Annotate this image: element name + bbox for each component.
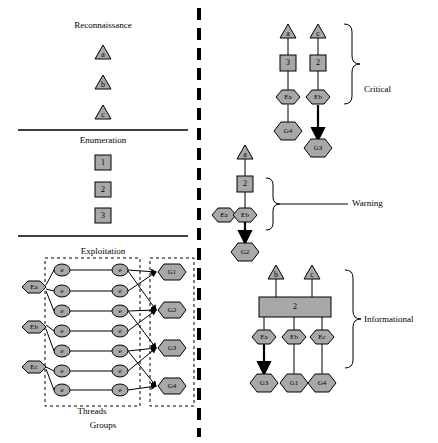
svg-text:2: 2 bbox=[293, 302, 297, 311]
thread-to-group-edges bbox=[128, 270, 156, 390]
svg-text:e: e bbox=[118, 367, 121, 375]
thread-row: e e bbox=[54, 365, 128, 377]
informational-node-Ea: Ea bbox=[252, 330, 276, 344]
label-reconnaissance: Reconnaissance bbox=[74, 20, 131, 30]
critical-node-Eb: Eb bbox=[306, 90, 330, 104]
label-warning: Warning bbox=[352, 198, 383, 208]
svg-text:e: e bbox=[60, 327, 63, 335]
svg-text:G1: G1 bbox=[290, 379, 299, 387]
warning-node-a: a bbox=[237, 145, 253, 159]
informational-node-G3: G3 bbox=[250, 374, 278, 392]
warning-node-G2: G2 bbox=[231, 243, 259, 261]
svg-text:e: e bbox=[60, 367, 63, 375]
svg-text:G4: G4 bbox=[318, 379, 327, 387]
svg-text:Ec: Ec bbox=[30, 363, 37, 371]
label-threads: Threads bbox=[78, 406, 107, 416]
thread-row: e e bbox=[54, 305, 128, 317]
svg-text:a: a bbox=[286, 29, 290, 38]
svg-text:Eb: Eb bbox=[30, 323, 38, 331]
recon-node-b: b bbox=[95, 75, 111, 89]
informational-node-G1: G1 bbox=[280, 374, 308, 392]
group-node-G1: G1 bbox=[158, 264, 186, 280]
label-exploitation: Exploitation bbox=[81, 246, 126, 256]
svg-text:Eb: Eb bbox=[314, 93, 322, 101]
svg-text:Eb: Eb bbox=[290, 333, 298, 341]
informational-node-G4: G4 bbox=[308, 374, 336, 392]
exploit-node-Ec: Ec bbox=[22, 361, 46, 373]
svg-text:c: c bbox=[101, 110, 105, 119]
critical-brace bbox=[344, 24, 360, 104]
svg-text:Eb: Eb bbox=[241, 211, 249, 219]
svg-text:Ec: Ec bbox=[318, 333, 325, 341]
recon-node-c: c bbox=[95, 105, 111, 119]
svg-text:c: c bbox=[316, 29, 320, 38]
critical-node-a: a bbox=[280, 24, 296, 38]
svg-text:e: e bbox=[60, 347, 63, 355]
diagram-canvas: a b c 1 2 3 Ea bbox=[0, 0, 438, 443]
thread-row: e e bbox=[54, 345, 128, 357]
svg-text:e: e bbox=[118, 347, 121, 355]
svg-text:e: e bbox=[118, 327, 121, 335]
enum-node-2: 2 bbox=[95, 182, 111, 197]
informational-node-2: 2 bbox=[259, 297, 331, 317]
svg-text:e: e bbox=[118, 266, 121, 274]
diagram-svg: a b c 1 2 3 Ea bbox=[0, 0, 438, 443]
enum-node-3: 3 bbox=[95, 208, 111, 223]
svg-text:G3: G3 bbox=[314, 144, 323, 152]
svg-text:2: 2 bbox=[101, 185, 105, 194]
svg-text:b: b bbox=[274, 270, 278, 279]
critical-node-c: c bbox=[310, 24, 326, 38]
svg-text:3: 3 bbox=[101, 211, 105, 220]
svg-text:Ea: Ea bbox=[220, 211, 228, 219]
svg-text:Ea: Ea bbox=[30, 283, 38, 291]
svg-text:G3: G3 bbox=[260, 379, 269, 387]
svg-text:G3: G3 bbox=[168, 344, 177, 352]
svg-text:e: e bbox=[60, 386, 63, 394]
label-enumeration: Enumeration bbox=[80, 135, 127, 145]
svg-text:e: e bbox=[118, 307, 121, 315]
informational-edges bbox=[264, 279, 322, 374]
informational-node-c: c bbox=[304, 265, 320, 279]
enum-node-1: 1 bbox=[95, 155, 111, 170]
svg-text:Ea: Ea bbox=[284, 93, 292, 101]
svg-text:3: 3 bbox=[286, 58, 290, 67]
critical-node-Ea: Ea bbox=[276, 90, 300, 104]
exploit-node-Ea: Ea bbox=[22, 281, 46, 293]
critical-node-2: 2 bbox=[310, 55, 326, 71]
critical-node-G3: G3 bbox=[304, 139, 332, 157]
svg-text:e: e bbox=[118, 287, 121, 295]
critical-node-3: 3 bbox=[280, 55, 296, 71]
warning-node-2: 2 bbox=[237, 176, 253, 192]
label-critical: Critical bbox=[364, 84, 391, 94]
thread-row: e e bbox=[54, 285, 128, 297]
informational-brace bbox=[345, 270, 361, 368]
group-node-G2: G2 bbox=[158, 302, 186, 318]
label-groups: Groups bbox=[90, 420, 117, 430]
informational-node-b: b bbox=[268, 265, 284, 279]
svg-text:G1: G1 bbox=[168, 268, 177, 276]
group-node-G4: G4 bbox=[158, 378, 186, 394]
critical-node-G4: G4 bbox=[274, 122, 302, 140]
svg-text:b: b bbox=[101, 80, 105, 89]
recon-node-a: a bbox=[95, 45, 111, 59]
thread-row: e e bbox=[54, 384, 128, 396]
informational-node-Eb: Eb bbox=[282, 330, 306, 344]
exploit-node-Eb: Eb bbox=[22, 321, 46, 333]
svg-text:e: e bbox=[118, 386, 121, 394]
group-node-G3: G3 bbox=[158, 340, 186, 356]
thread-row: e e bbox=[54, 264, 128, 276]
svg-text:2: 2 bbox=[243, 179, 247, 188]
svg-text:G2: G2 bbox=[241, 248, 250, 256]
svg-text:2: 2 bbox=[316, 58, 320, 67]
svg-text:G4: G4 bbox=[168, 382, 177, 390]
label-informational: Informational bbox=[364, 314, 413, 324]
svg-text:a: a bbox=[243, 150, 247, 159]
exploit-to-thread-edges bbox=[46, 270, 54, 390]
svg-text:e: e bbox=[60, 307, 63, 315]
svg-text:e: e bbox=[60, 266, 63, 274]
informational-node-Ec: Ec bbox=[310, 330, 334, 344]
svg-text:a: a bbox=[101, 50, 105, 59]
svg-text:Ea: Ea bbox=[260, 333, 268, 341]
svg-text:G4: G4 bbox=[284, 127, 293, 135]
svg-text:e: e bbox=[60, 287, 63, 295]
